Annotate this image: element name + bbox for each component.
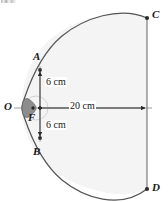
point-label-b: B: [33, 146, 40, 157]
point-marker-d: [145, 187, 149, 191]
dimension-label-upper-radius: 6 cm: [45, 77, 67, 87]
point-label-d: D: [152, 182, 160, 193]
point-marker-a: [38, 68, 42, 72]
point-label-a: A: [33, 51, 40, 62]
point-marker-b: [38, 136, 42, 140]
point-marker-c: [145, 16, 149, 20]
dimension-label-lower-radius: 6 cm: [45, 120, 67, 130]
point-label-o: O: [4, 101, 12, 112]
point-label-c: C: [152, 9, 159, 20]
point-label-f: F: [28, 112, 35, 123]
dimension-label-depth: 20 cm: [69, 101, 96, 111]
point-marker-f: [31, 106, 34, 109]
parabola-diagram: O F A B C D 6 cm 6 cm 20 cm: [0, 0, 168, 202]
